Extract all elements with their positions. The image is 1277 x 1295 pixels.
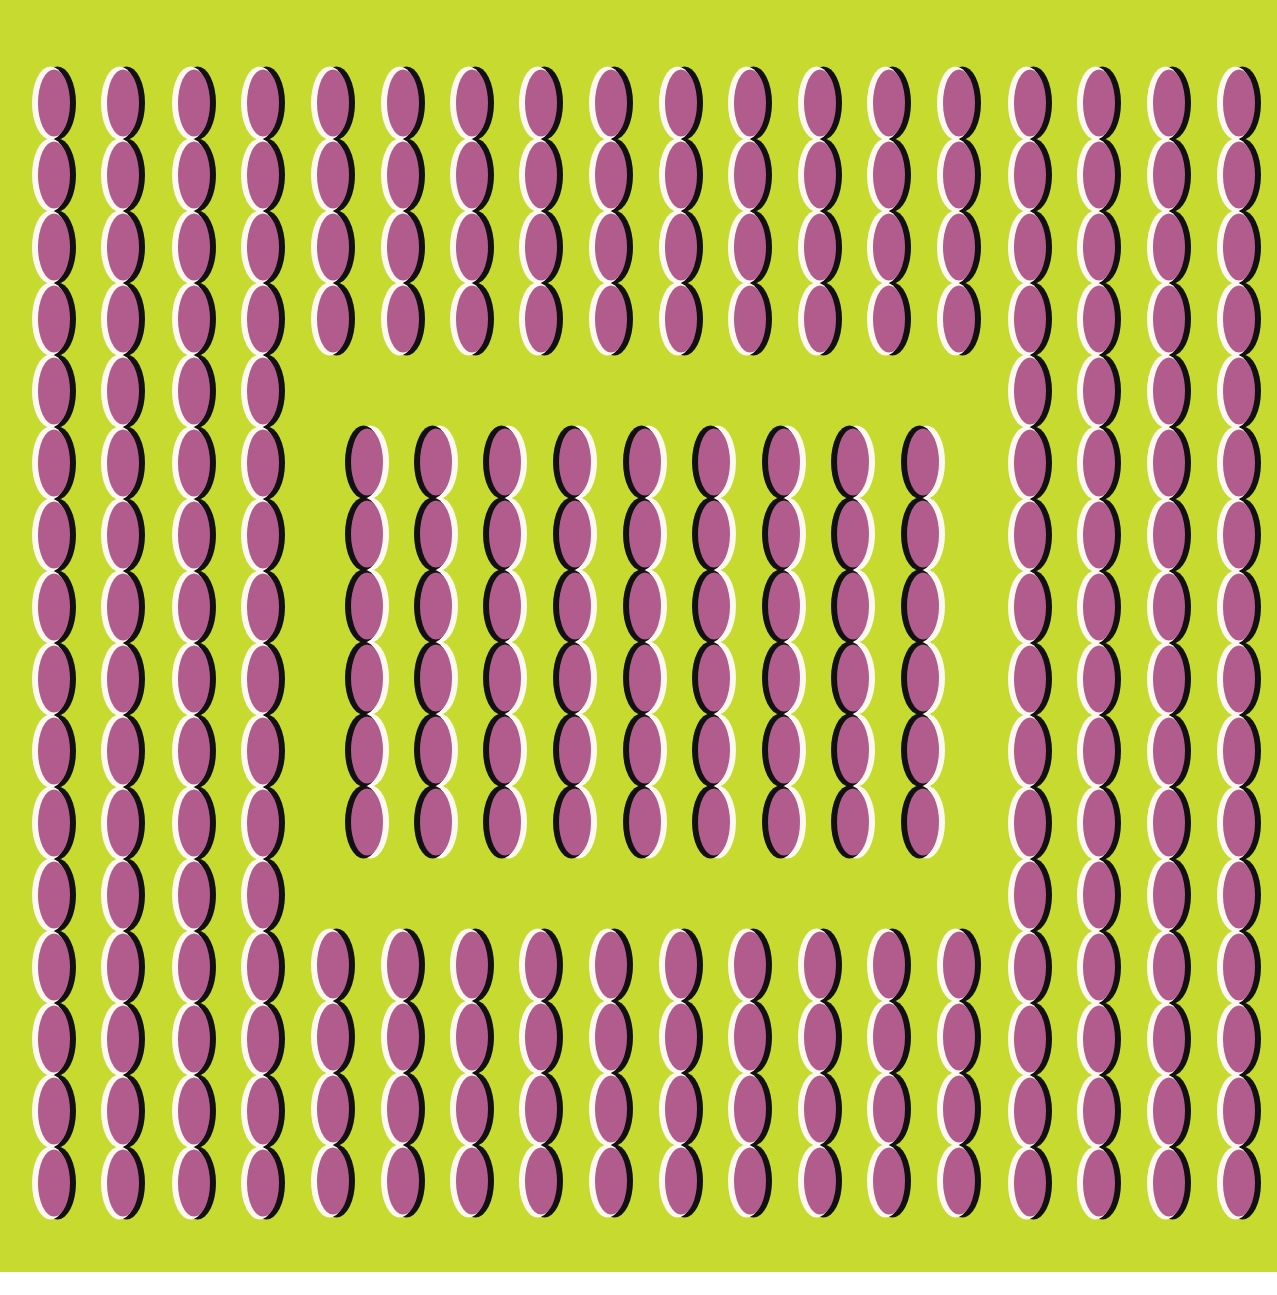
pink-ellipse xyxy=(178,646,210,713)
pink-ellipse xyxy=(804,214,836,281)
pink-ellipse xyxy=(247,718,279,785)
pink-ellipse xyxy=(768,789,800,856)
pink-ellipse xyxy=(1014,1078,1046,1145)
pink-ellipse xyxy=(1223,718,1255,785)
outer-left-full-columns-column xyxy=(241,67,285,1220)
top-short-columns-column xyxy=(937,67,981,356)
pink-ellipse xyxy=(1014,718,1046,785)
pink-ellipse xyxy=(1014,358,1046,425)
pink-ellipse xyxy=(456,932,488,999)
pink-ellipse xyxy=(595,932,627,999)
pink-ellipse xyxy=(247,862,279,929)
pink-ellipse xyxy=(1083,502,1115,569)
pink-ellipse xyxy=(38,934,70,1001)
pink-ellipse xyxy=(107,214,139,281)
pink-ellipse xyxy=(178,70,210,137)
pink-ellipse xyxy=(734,214,766,281)
pink-ellipse xyxy=(907,717,939,784)
top-short-columns-column xyxy=(450,67,494,356)
pink-ellipse xyxy=(1014,502,1046,569)
top-short-columns-column xyxy=(867,67,911,356)
pink-ellipse xyxy=(768,717,800,784)
bottom-short-columns-column xyxy=(798,929,842,1218)
pink-ellipse xyxy=(1153,574,1185,641)
pink-ellipse xyxy=(456,1004,488,1071)
pink-ellipse xyxy=(1083,646,1115,713)
pink-ellipse xyxy=(1014,646,1046,713)
pink-ellipse xyxy=(629,501,661,568)
pink-ellipse xyxy=(489,501,521,568)
pink-ellipse xyxy=(873,1076,905,1143)
inner-reversed-block-column xyxy=(692,426,736,859)
top-short-columns-column xyxy=(311,67,355,356)
top-short-columns-column xyxy=(728,67,772,356)
pink-ellipse xyxy=(1014,142,1046,209)
pink-ellipse xyxy=(178,934,210,1001)
top-short-columns-column xyxy=(798,67,842,356)
pink-ellipse xyxy=(804,286,836,353)
pink-ellipse xyxy=(525,932,557,999)
pink-ellipse xyxy=(489,429,521,496)
pink-ellipse xyxy=(1223,862,1255,929)
pink-ellipse xyxy=(1014,934,1046,1001)
pink-ellipse xyxy=(698,501,730,568)
pink-ellipse xyxy=(247,574,279,641)
illusion-canvas xyxy=(0,0,1277,1295)
pink-ellipse xyxy=(943,214,975,281)
pink-ellipse xyxy=(595,70,627,137)
pink-ellipse xyxy=(317,142,349,209)
pink-ellipse xyxy=(38,214,70,281)
pink-ellipse xyxy=(107,574,139,641)
pink-ellipse xyxy=(1153,214,1185,281)
pink-ellipse xyxy=(456,142,488,209)
pink-ellipse xyxy=(387,142,419,209)
pink-ellipse xyxy=(629,717,661,784)
pink-ellipse xyxy=(559,501,591,568)
pink-ellipse xyxy=(907,645,939,712)
pink-ellipse xyxy=(1223,1006,1255,1073)
pink-ellipse xyxy=(387,1004,419,1071)
pink-ellipse xyxy=(178,502,210,569)
pink-ellipse xyxy=(1014,430,1046,497)
pink-ellipse xyxy=(178,214,210,281)
top-short-columns-column xyxy=(589,67,633,356)
pink-ellipse xyxy=(559,429,591,496)
pink-ellipse xyxy=(1223,214,1255,281)
pink-ellipse xyxy=(38,1078,70,1145)
outer-left-full-columns-column xyxy=(101,67,145,1220)
pink-ellipse xyxy=(387,1076,419,1143)
pink-ellipse xyxy=(943,932,975,999)
outer-right-full-columns-column xyxy=(1217,67,1261,1220)
pink-ellipse xyxy=(456,70,488,137)
pink-ellipse xyxy=(317,932,349,999)
pink-ellipse xyxy=(629,645,661,712)
pink-ellipse xyxy=(559,717,591,784)
pink-ellipse xyxy=(1223,1078,1255,1145)
pink-ellipse xyxy=(1153,358,1185,425)
pink-ellipse xyxy=(107,934,139,1001)
pink-ellipse xyxy=(1083,790,1115,857)
pink-ellipse xyxy=(698,573,730,640)
pink-ellipse xyxy=(38,358,70,425)
pink-ellipse xyxy=(38,430,70,497)
pink-ellipse xyxy=(734,286,766,353)
pink-ellipse xyxy=(873,70,905,137)
pink-ellipse xyxy=(317,1148,349,1215)
pink-ellipse xyxy=(1223,286,1255,353)
pink-ellipse xyxy=(734,932,766,999)
pink-ellipse xyxy=(1083,574,1115,641)
pink-ellipse xyxy=(873,214,905,281)
pink-ellipse xyxy=(247,430,279,497)
pink-ellipse xyxy=(107,1078,139,1145)
pink-ellipse xyxy=(351,429,383,496)
pink-ellipse xyxy=(420,429,452,496)
pink-ellipse xyxy=(178,286,210,353)
pink-ellipse xyxy=(525,1076,557,1143)
pink-ellipse xyxy=(804,1076,836,1143)
pink-ellipse xyxy=(420,717,452,784)
pink-ellipse xyxy=(1083,142,1115,209)
pink-ellipse xyxy=(943,70,975,137)
pink-ellipse xyxy=(1083,430,1115,497)
pink-ellipse xyxy=(665,142,697,209)
pink-ellipse xyxy=(107,1150,139,1217)
